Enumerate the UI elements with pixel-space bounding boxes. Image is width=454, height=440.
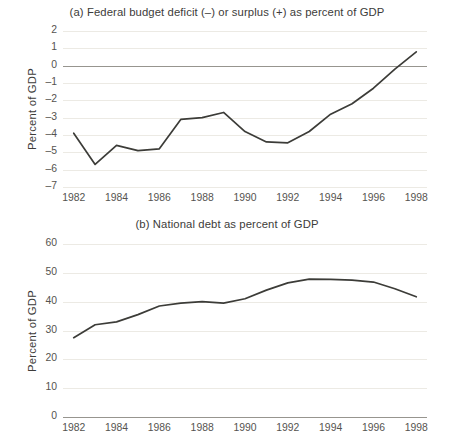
x-axis-tick-label: 1986 <box>137 422 181 433</box>
y-axis-tick-label: 20 <box>33 352 57 363</box>
gridline <box>63 187 427 188</box>
panel-a-plot-area: 210–1–2–3–4–5–6–719821984198619881990199… <box>63 31 427 187</box>
panel-b-plot-area: 6050403020100198219841986198819901992199… <box>63 244 427 417</box>
x-axis-tick-label: 1998 <box>394 192 438 203</box>
y-axis-tick-label: –2 <box>33 93 57 104</box>
series-layer <box>63 31 427 187</box>
chart-panel-b: (b) National debt as percent of GDP Perc… <box>0 212 454 440</box>
y-axis-tick-label: 0 <box>33 410 57 421</box>
x-axis-tick-label: 1992 <box>266 422 310 433</box>
x-axis-tick-label: 1982 <box>52 422 96 433</box>
y-axis-tick-label: 0 <box>33 59 57 70</box>
y-axis-tick-label: 30 <box>33 324 57 335</box>
panel-a-title: (a) Federal budget deficit (–) or surplu… <box>0 6 454 18</box>
y-axis-tick-label: 50 <box>33 266 57 277</box>
x-axis-tick-label: 1990 <box>223 422 267 433</box>
chart-panel-a: (a) Federal budget deficit (–) or surplu… <box>0 0 454 212</box>
x-axis-tick-label: 1984 <box>95 192 139 203</box>
x-axis-tick-label: 1990 <box>223 192 267 203</box>
x-axis-tick-label: 1988 <box>180 422 224 433</box>
y-axis-tick-label: 60 <box>33 237 57 248</box>
x-axis-tick-label: 1998 <box>394 422 438 433</box>
y-axis-tick-label: 40 <box>33 295 57 306</box>
y-axis-tick-label: –7 <box>33 180 57 191</box>
figure-budget-deficit-and-national-debt: (a) Federal budget deficit (–) or surplu… <box>0 0 454 440</box>
y-axis-tick-label: 10 <box>33 381 57 392</box>
series-layer <box>63 244 427 417</box>
x-axis-tick-label: 1982 <box>52 192 96 203</box>
panel-b-title: (b) National debt as percent of GDP <box>0 218 454 230</box>
y-axis-tick-label: –5 <box>33 145 57 156</box>
y-axis-tick-label: –3 <box>33 111 57 122</box>
y-axis-tick-label: 1 <box>33 41 57 52</box>
y-axis-tick-label: –4 <box>33 128 57 139</box>
x-axis-tick-label: 1992 <box>266 192 310 203</box>
x-axis-tick-label: 1984 <box>95 422 139 433</box>
x-axis-tick-label: 1994 <box>309 192 353 203</box>
x-axis-tick-label: 1996 <box>351 422 395 433</box>
series-line <box>74 52 417 165</box>
x-axis-tick-label: 1994 <box>309 422 353 433</box>
x-axis-tick-label: 1988 <box>180 192 224 203</box>
zero-axis-line <box>63 417 427 418</box>
y-axis-tick-label: –6 <box>33 163 57 174</box>
y-axis-tick-label: 2 <box>33 24 57 35</box>
x-axis-tick-label: 1996 <box>351 192 395 203</box>
y-axis-tick-label: –1 <box>33 76 57 87</box>
x-axis-tick-label: 1986 <box>137 192 181 203</box>
series-line <box>74 279 417 338</box>
